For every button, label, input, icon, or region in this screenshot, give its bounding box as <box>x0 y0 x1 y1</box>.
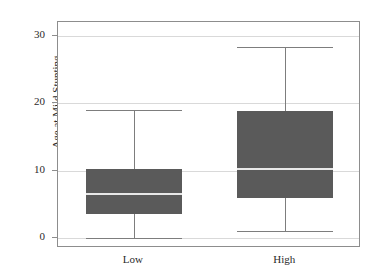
x-axis-tick-label: High <box>244 254 324 265</box>
gridline <box>58 36 359 37</box>
whisker-lower <box>134 214 135 238</box>
median-line <box>237 168 333 170</box>
y-axis-tick-label: 10 <box>15 164 45 175</box>
whisker-cap-lower <box>237 231 333 232</box>
y-axis-tick-label: 30 <box>15 29 45 40</box>
median-line <box>86 193 182 195</box>
box-iqr <box>237 111 333 198</box>
box-iqr <box>86 169 182 213</box>
y-axis-tick-label: 20 <box>15 96 45 107</box>
whisker-cap-upper <box>237 47 333 48</box>
whisker-cap-upper <box>86 110 182 111</box>
whisker-upper <box>134 110 135 169</box>
whisker-lower <box>285 198 286 231</box>
gridline <box>58 103 359 104</box>
plot-area <box>57 21 360 247</box>
whisker-upper <box>285 47 286 112</box>
box-plot-figure: Age at Mild Stunting 0102030 LowHigh <box>0 0 377 279</box>
x-axis-tick-label: Low <box>93 254 173 265</box>
y-axis-tick-label: 0 <box>15 231 45 242</box>
whisker-cap-lower <box>86 238 182 239</box>
